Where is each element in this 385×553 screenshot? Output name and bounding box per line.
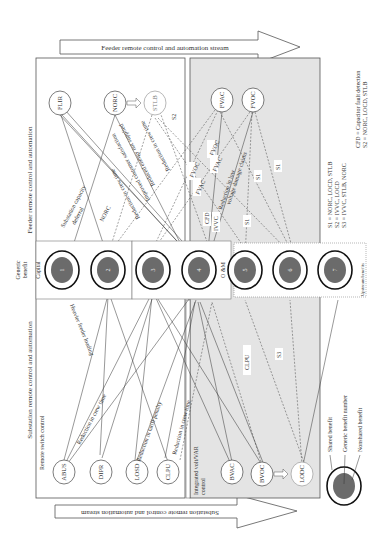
legend-generic-number: Generic benefit number — [342, 395, 348, 452]
svg-text:1: 1 — [59, 269, 65, 272]
svg-text:2: 2 — [105, 269, 111, 272]
feeder-section-label: Feeder remote control and automation — [26, 126, 34, 233]
legend-s2: S2 = IVVC, LOCD — [334, 181, 340, 228]
benefit-circle-3[interactable]: 3 — [136, 251, 170, 289]
node-norc[interactable]: NORC — [104, 91, 126, 115]
svg-text:BVAC: BVAC — [228, 463, 235, 480]
generic-benefit-header: Generic — [15, 260, 21, 279]
svg-text:DIPR: DIPR — [97, 464, 104, 479]
svg-text:BVOC: BVOC — [258, 465, 265, 483]
benefit-circle-5[interactable]: 5 — [228, 251, 262, 289]
legend-cfd: CFD = Capacitor fault detection — [355, 71, 361, 148]
benefit-strip: Generic benefit Capital O &M Upstream be… — [15, 241, 366, 299]
svg-text:6: 6 — [287, 269, 293, 272]
node-lodc[interactable]: LODC — [291, 462, 313, 486]
capital-label: Capital — [35, 261, 41, 279]
node-bvoc[interactable]: BVOC — [251, 462, 273, 486]
benefit-circle-6[interactable]: 6 — [273, 251, 307, 289]
svg-text:CLPU: CLPU — [244, 354, 250, 370]
svg-text:5: 5 — [242, 269, 248, 272]
legend-s1: S1 = NORC, LOCD, STLB — [327, 162, 333, 228]
svg-text:3: 3 — [150, 269, 156, 272]
node-losd[interactable]: LOSD — [126, 460, 148, 484]
legend-shared: Shared benefit — [327, 417, 333, 452]
upstream-label: Upstream benefits — [360, 263, 365, 296]
legend-s3: S3 = IVVC, STLB, NORC — [341, 163, 347, 228]
remote-switch-label: Remote switch control — [39, 415, 45, 470]
svg-text:IVVC: IVVC — [213, 216, 219, 231]
svg-text:STLB: STLB — [151, 94, 158, 111]
svg-text:S1: S1 — [255, 174, 261, 180]
ivvc-label-line2: control — [200, 478, 206, 495]
substation-stream-label: Substation remote control and automation… — [81, 509, 219, 517]
symbol-legend: Shared benefit Generic benefit number No… — [327, 395, 363, 505]
node-flir[interactable]: FLIR — [49, 91, 71, 115]
svg-text:CFD: CFD — [204, 212, 210, 224]
node-bvac[interactable]: BVAC — [221, 460, 243, 484]
node-dipr[interactable]: DIPR — [90, 460, 112, 484]
svg-text:ABUS: ABUS — [60, 463, 67, 481]
benefit-circle-1[interactable]: 1 — [45, 251, 79, 289]
legend-nonshared: Nonshared benefit — [357, 408, 363, 452]
om-label: O &M — [220, 261, 226, 278]
abbreviation-legend: S1 = NORC, LOCD, STLB S2 = IVVC, LOCD S3… — [327, 71, 368, 228]
legend-s2-alt: S2 = NORC, LOCD, STLB — [362, 82, 368, 148]
svg-text:S3: S3 — [276, 352, 282, 358]
benefit-circle-7[interactable]: 7 — [318, 251, 352, 289]
node-fvoc[interactable]: FVOC — [242, 88, 264, 112]
svg-text:LODC: LODC — [298, 465, 305, 483]
node-fvac[interactable]: FVAC — [211, 88, 233, 112]
benefit-circle-2[interactable]: 2 — [91, 251, 125, 289]
node-abus[interactable]: ABUS — [53, 460, 75, 484]
svg-text:7: 7 — [332, 269, 338, 272]
node-stlb[interactable]: STLB — [144, 91, 166, 115]
svg-text:S2: S2 — [171, 114, 177, 120]
svg-text:FVAC: FVAC — [218, 92, 225, 109]
svg-text:4: 4 — [196, 269, 202, 272]
node-clpu[interactable]: CLPU — [157, 460, 179, 484]
benefit-stream-diagram: Feeder remote control and automation str… — [0, 0, 385, 553]
svg-text:FVOC: FVOC — [249, 91, 256, 108]
benefit-circle-4[interactable]: 4 — [182, 251, 216, 289]
svg-text:NORC: NORC — [111, 94, 118, 112]
ivvc-label-line1: Integrated volt/VAR — [193, 446, 199, 495]
svg-text:S1: S1 — [244, 219, 250, 225]
svg-text:CLPU: CLPU — [164, 463, 171, 480]
svg-text:benefit: benefit — [22, 261, 28, 278]
svg-text:FLIR: FLIR — [56, 95, 63, 110]
feeder-stream-label: Feeder remote control and automation str… — [101, 44, 229, 52]
substation-section-label: Substation remote control and automation — [26, 321, 34, 439]
substation-stream-arrow: Substation remote control and automation… — [55, 495, 297, 528]
svg-text:LOSD: LOSD — [133, 463, 140, 480]
svg-text:S1: S1 — [275, 164, 281, 170]
